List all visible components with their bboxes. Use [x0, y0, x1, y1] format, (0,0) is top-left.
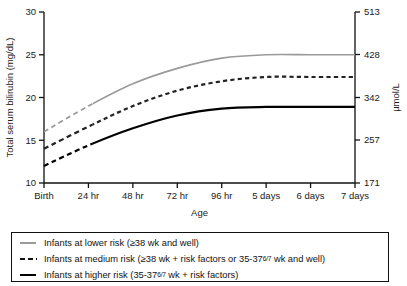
legend-item-higher-risk: Infants at higher risk (35-376/7 wk + ri…	[19, 267, 388, 283]
y-axis-tick-label: 20	[25, 92, 36, 103]
chart-legend: Infants at lower risk (≥38 wk and well) …	[11, 232, 389, 282]
x-axis-tick-label: 72 hr	[166, 190, 188, 201]
right-y-axis-tick-label: 513	[364, 6, 380, 17]
legend-line-medium-risk-icon	[19, 254, 39, 264]
legend-line-higher-risk-icon	[19, 270, 39, 280]
y-axis-tick-label: 10	[25, 177, 36, 188]
right-y-axis-title: µmol/L	[390, 83, 401, 112]
y-axis-title: Total serum bilirubin (mg/dL)	[4, 38, 15, 158]
series-line-lead-222222	[44, 77, 355, 149]
x-axis-tick-label: 5 days	[252, 190, 280, 201]
legend-item-lower-risk: Infants at lower risk (≥38 wk and well)	[19, 235, 388, 251]
y-axis-tick-label: 30	[25, 6, 36, 17]
x-axis-tick-label: 24 hr	[78, 190, 100, 201]
fraction-six-sevenths: 6/7	[157, 272, 166, 279]
y-axis-tick-label: 25	[25, 49, 36, 60]
series-line-medium-risk	[44, 77, 355, 149]
x-axis-tick-label: 7 days	[341, 190, 369, 201]
legend-label-medium-risk: Infants at medium risk (≥38 wk + risk fa…	[44, 254, 325, 265]
chart-area: 1015202530171257342428513Birth24 hr48 hr…	[0, 0, 407, 225]
right-y-axis-tick-label: 257	[364, 134, 380, 145]
phototherapy-threshold-chart: 1015202530171257342428513Birth24 hr48 hr…	[0, 0, 407, 225]
legend-item-medium-risk: Infants at medium risk (≥38 wk + risk fa…	[19, 251, 388, 267]
x-axis-title: Age	[191, 207, 208, 218]
right-y-axis-tick-label: 171	[364, 177, 380, 188]
legend-label-lower-risk: Infants at lower risk (≥38 wk and well)	[44, 238, 199, 249]
x-axis-tick-label: 48 hr	[122, 190, 144, 201]
series-line-higher-risk	[44, 107, 355, 166]
series-line-lead-000000	[44, 107, 355, 166]
right-y-axis-tick-label: 428	[364, 49, 380, 60]
x-axis-tick-label: 96 hr	[211, 190, 233, 201]
y-axis-tick-label: 15	[25, 135, 36, 146]
right-y-axis-tick-label: 342	[364, 92, 380, 103]
series-line-lead-9a9a9a	[44, 54, 355, 131]
x-axis-tick-label: Birth	[34, 190, 54, 201]
legend-label-higher-risk: Infants at higher risk (35-376/7 wk + ri…	[44, 270, 238, 281]
axis-frame	[44, 12, 355, 183]
series-line-lower-risk	[44, 54, 355, 131]
bilirubin-nomogram-figure: 1015202530171257342428513Birth24 hr48 hr…	[0, 0, 407, 286]
legend-line-lower-risk-icon	[19, 238, 39, 248]
x-axis-tick-label: 6 days	[297, 190, 325, 201]
